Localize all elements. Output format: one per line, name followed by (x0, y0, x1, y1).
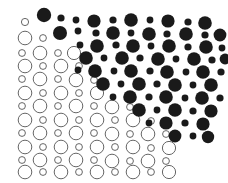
filled-circle (151, 52, 165, 66)
filled-circle (190, 133, 197, 140)
outline-circle (112, 144, 119, 151)
outline-circle (40, 169, 47, 176)
outline-circle (91, 157, 98, 164)
outline-circle (126, 140, 140, 154)
outline-circle (148, 169, 155, 176)
filled-circle (79, 51, 93, 65)
filled-circle (87, 14, 100, 27)
outline-circle (19, 50, 26, 57)
filled-circle (198, 16, 212, 30)
filled-circle (147, 17, 154, 24)
outline-circle (127, 131, 134, 138)
filled-circle (154, 107, 161, 114)
outline-circle (105, 100, 119, 114)
filled-circle (132, 77, 146, 91)
outline-circle (18, 86, 32, 100)
filled-circle (196, 65, 210, 79)
outline-circle (33, 99, 47, 113)
outline-circle (18, 59, 32, 73)
outline-circle (40, 144, 47, 151)
outline-circle (127, 158, 134, 165)
outline-circle (76, 169, 83, 176)
outline-circle (55, 76, 62, 83)
filled-circle (208, 56, 215, 63)
outline-circle (18, 140, 32, 154)
pattern-canvas (0, 0, 228, 183)
filled-circle (196, 117, 209, 130)
outline-circle (67, 46, 80, 59)
filled-circle (123, 90, 137, 104)
filled-circle (124, 13, 138, 27)
filled-circle (136, 54, 143, 61)
filled-circle (162, 39, 176, 53)
outline-circle (141, 154, 155, 168)
filled-circle (182, 95, 189, 102)
filled-circle (132, 103, 146, 117)
outline-circle (54, 86, 68, 100)
filled-circle (146, 120, 153, 127)
outline-circle (18, 165, 32, 179)
outline-circle (91, 130, 98, 137)
filled-circle (219, 45, 226, 52)
outline-circle (55, 130, 62, 137)
outline-circle (90, 165, 104, 179)
filled-circle (160, 65, 174, 79)
filled-circle (106, 26, 120, 40)
filled-circle (199, 40, 213, 54)
filled-circle (128, 30, 135, 37)
filled-circle (179, 27, 193, 41)
outline-circle (33, 126, 47, 140)
filled-circle (173, 56, 180, 63)
filled-circle (183, 69, 190, 76)
filled-circle (124, 64, 138, 78)
outline-circle (163, 158, 170, 165)
outline-circle (55, 103, 62, 110)
filled-circle (115, 51, 129, 65)
outline-circle (162, 141, 175, 154)
outline-circle (54, 59, 68, 73)
outline-circle (55, 50, 62, 57)
outline-circle (54, 165, 68, 179)
outline-circle (112, 169, 119, 176)
filled-circle (148, 43, 155, 50)
filled-circle (159, 90, 173, 104)
outline-circle (69, 99, 83, 113)
filled-circle (145, 93, 152, 100)
outline-circle (33, 72, 47, 86)
outline-circle (90, 113, 104, 127)
filled-circle (184, 18, 191, 25)
outline-circle (76, 90, 83, 97)
filled-circle (96, 77, 110, 91)
outline-circle (69, 153, 83, 167)
outline-circle (55, 157, 62, 164)
outline-circle (126, 165, 140, 179)
filled-circle (101, 55, 108, 62)
outline-circle (163, 131, 170, 138)
filled-circle (161, 14, 174, 27)
filled-circle (168, 78, 182, 92)
outline-circle (19, 103, 26, 110)
filled-circle (202, 131, 214, 143)
outline-circle (40, 35, 47, 42)
outline-circle (19, 130, 26, 137)
outline-circle (69, 126, 83, 140)
outline-circle (33, 46, 47, 60)
filled-circle (190, 82, 197, 89)
outline-circle (19, 157, 26, 164)
filled-circle (126, 39, 140, 53)
filled-circle (216, 94, 223, 101)
outline-circle (162, 165, 175, 178)
filled-circle (73, 17, 80, 24)
outline-circle (148, 145, 155, 152)
filled-circle (169, 130, 182, 143)
filled-circle (111, 68, 118, 75)
outline-circle (54, 140, 68, 154)
outline-circle (76, 117, 83, 124)
filled-circle (75, 28, 82, 35)
outline-circle (40, 90, 47, 97)
outline-circle (40, 63, 47, 70)
outline-circle (141, 127, 155, 141)
filled-circle (181, 119, 188, 126)
filled-circle (184, 43, 191, 50)
filled-circle (112, 41, 119, 48)
